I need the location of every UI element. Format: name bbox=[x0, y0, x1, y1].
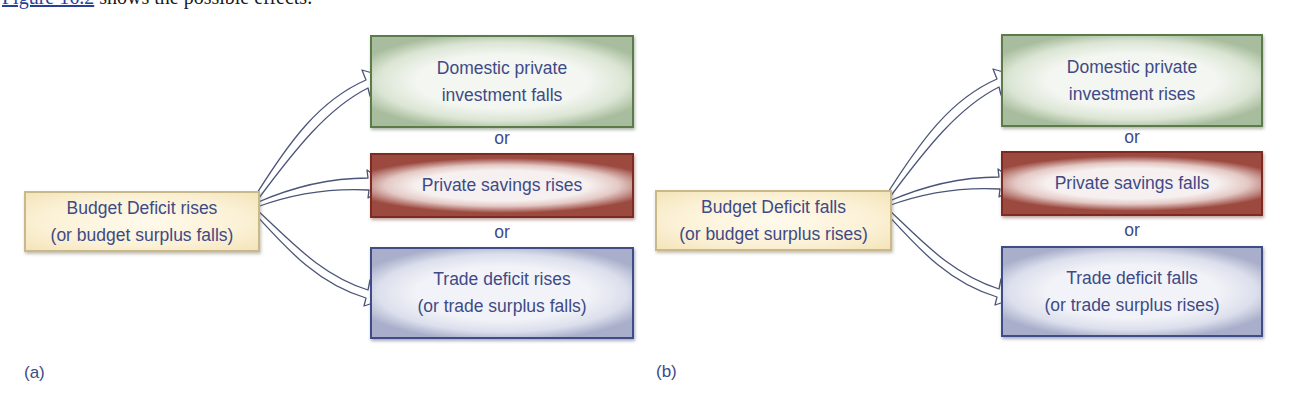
source-line-2: (or budget surplus rises) bbox=[679, 221, 868, 248]
target-box-trade: Trade deficit falls (or trade surplus ri… bbox=[1001, 246, 1263, 337]
arrow-icon bbox=[886, 209, 1019, 305]
target-box-savings: Private savings falls bbox=[1001, 151, 1263, 216]
target-line-1: Trade deficit falls bbox=[1066, 265, 1198, 292]
source-box: Budget Deficit rises (or budget surplus … bbox=[24, 191, 260, 252]
target-line-1: Domestic private bbox=[1067, 54, 1197, 81]
target-line-1: Private savings rises bbox=[422, 172, 582, 199]
source-line-1: Budget Deficit rises bbox=[67, 195, 218, 222]
arrow-icon bbox=[255, 210, 388, 306]
or-connector: or bbox=[1001, 220, 1263, 241]
target-line-1: Domestic private bbox=[437, 55, 567, 82]
arrow-icon bbox=[254, 70, 386, 202]
diagram-panel-a: Budget Deficit rises (or budget surplus … bbox=[0, 0, 646, 401]
target-line-2: (or trade surplus falls) bbox=[417, 293, 586, 320]
panel-label: (a) bbox=[24, 363, 45, 383]
source-line-1: Budget Deficit falls bbox=[701, 194, 846, 221]
target-box-investment: Domestic private investment falls bbox=[370, 35, 634, 128]
source-box: Budget Deficit falls (or budget surplus … bbox=[655, 190, 892, 251]
target-line-2: (or trade surplus rises) bbox=[1044, 292, 1219, 319]
arrow-icon bbox=[887, 169, 1019, 206]
or-connector: or bbox=[370, 128, 634, 149]
panel-label: (b) bbox=[656, 362, 677, 382]
source-line-2: (or budget surplus falls) bbox=[51, 222, 234, 249]
target-box-savings: Private savings rises bbox=[370, 153, 634, 218]
arrow-icon bbox=[885, 69, 1017, 201]
target-box-investment: Domestic private investment rises bbox=[1001, 34, 1263, 127]
diagram-panel-b: Budget Deficit falls (or budget surplus … bbox=[631, 0, 1277, 401]
target-line-1: Private savings falls bbox=[1055, 170, 1210, 197]
or-connector: or bbox=[370, 222, 634, 243]
or-connector: or bbox=[1001, 127, 1263, 148]
target-line-2: investment falls bbox=[442, 82, 563, 109]
target-line-1: Trade deficit rises bbox=[433, 266, 570, 293]
target-line-2: investment rises bbox=[1069, 81, 1195, 108]
target-box-trade: Trade deficit rises (or trade surplus fa… bbox=[370, 247, 634, 339]
arrow-icon bbox=[256, 170, 388, 207]
